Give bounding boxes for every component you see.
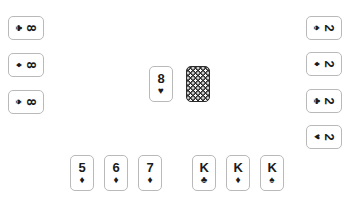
card-bottom-2[interactable]: 7 ♦ [138, 155, 162, 191]
card-table: 8 ♣ 8 ♦ 8 ♠ 2 ♠ 2 ♦ 2 ♣ 2 ♥ [0, 0, 356, 205]
card-rank: K [199, 161, 208, 174]
card-left-0[interactable]: 8 ♣ [8, 16, 44, 40]
card-suit-club-icon: ♣ [312, 98, 322, 105]
card-rank: K [233, 161, 242, 174]
card-rank: 2 [323, 25, 336, 32]
card-rank: 6 [113, 161, 120, 174]
card-rank: K [267, 161, 276, 174]
card-rank: 8 [25, 99, 38, 106]
card-suit-diamond-icon: ♦ [147, 175, 152, 185]
card-suit-heart-icon: ♥ [158, 86, 164, 96]
card-suit-diamond-icon: ♦ [14, 62, 24, 67]
card-suit-spade-icon: ♠ [269, 175, 274, 185]
card-bottom-3[interactable]: K ♣ [192, 155, 216, 191]
card-bottom-5[interactable]: K ♠ [260, 155, 284, 191]
card-bottom-1[interactable]: 6 ♦ [104, 155, 128, 191]
card-suit-heart-icon: ♥ [312, 134, 322, 140]
card-suit-diamond-icon: ♦ [312, 61, 322, 66]
card-right-1[interactable]: 2 ♦ [306, 52, 342, 76]
card-suit-spade-icon: ♠ [312, 25, 322, 30]
card-bottom-0[interactable]: 5 ♦ [70, 155, 94, 191]
card-rank: 8 [25, 25, 38, 32]
card-suit-diamond-icon: ♦ [113, 175, 118, 185]
card-suit-club-icon: ♣ [14, 25, 24, 32]
card-rank: 5 [79, 161, 86, 174]
card-suit-spade-icon: ♠ [14, 99, 24, 104]
card-suit-diamond-icon: ♦ [79, 175, 84, 185]
card-right-0[interactable]: 2 ♠ [306, 16, 342, 40]
card-left-1[interactable]: 8 ♦ [8, 53, 44, 77]
card-suit-diamond-icon: ♦ [235, 175, 240, 185]
card-left-2[interactable]: 8 ♠ [8, 90, 44, 114]
card-rank: 2 [323, 98, 336, 105]
card-rank: 7 [147, 161, 154, 174]
card-suit-club-icon: ♣ [201, 175, 208, 185]
center-card-face-down[interactable] [186, 66, 210, 102]
card-bottom-4[interactable]: K ♦ [226, 155, 250, 191]
card-rank: 8 [158, 72, 165, 85]
card-right-2[interactable]: 2 ♣ [306, 89, 342, 113]
center-card-face-up[interactable]: 8 ♥ [149, 66, 173, 102]
card-rank: 2 [323, 61, 336, 68]
card-rank: 2 [323, 134, 336, 141]
card-rank: 8 [25, 62, 38, 69]
card-right-3[interactable]: 2 ♥ [306, 125, 342, 149]
